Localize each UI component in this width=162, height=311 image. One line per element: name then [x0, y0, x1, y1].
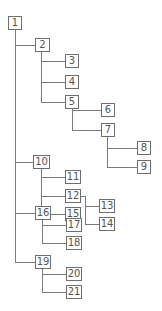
tree-node-9: 9 [137, 160, 151, 174]
connector [42, 269, 43, 292]
connector [15, 45, 35, 46]
tree-node-3: 3 [65, 54, 79, 68]
tree-node-11: 11 [65, 170, 81, 184]
connector [85, 224, 99, 225]
tree-node-19: 19 [35, 255, 51, 269]
tree-node-8: 8 [137, 141, 151, 155]
connector [41, 196, 65, 197]
connector [41, 52, 42, 102]
tree-node-6: 6 [101, 103, 115, 117]
tree-node-7: 7 [101, 123, 115, 137]
connector [85, 196, 86, 225]
tree-node-21: 21 [66, 285, 82, 299]
connector [15, 262, 35, 263]
tree-node-12: 12 [65, 189, 81, 203]
tree-diagram: 1 2 3 4 5 6 7 8 9 10 11 12 15 13 14 16 1… [0, 0, 162, 311]
connector [72, 130, 101, 131]
connector [15, 162, 33, 163]
tree-node-5: 5 [65, 95, 79, 109]
connector [72, 109, 73, 130]
connector [107, 148, 137, 149]
connector [42, 292, 66, 293]
connector [107, 167, 137, 168]
connector [42, 243, 66, 244]
tree-node-18: 18 [66, 236, 82, 250]
connector [41, 177, 65, 178]
connector [15, 213, 35, 214]
connector [41, 61, 65, 62]
connector [41, 82, 65, 83]
tree-node-20: 20 [66, 267, 82, 281]
tree-node-13: 13 [99, 199, 115, 213]
tree-node-2: 2 [35, 38, 50, 52]
connector [42, 220, 43, 243]
tree-node-10: 10 [33, 155, 50, 169]
connector [42, 225, 66, 226]
tree-node-17: 17 [66, 218, 82, 232]
connector [107, 137, 108, 167]
connector [15, 30, 16, 262]
tree-node-4: 4 [65, 75, 79, 89]
tree-node-16: 16 [35, 206, 51, 220]
connector [41, 102, 65, 103]
tree-node-14: 14 [99, 217, 115, 231]
connector [72, 110, 101, 111]
tree-node-1: 1 [8, 16, 22, 30]
connector [42, 274, 66, 275]
connector [85, 206, 99, 207]
